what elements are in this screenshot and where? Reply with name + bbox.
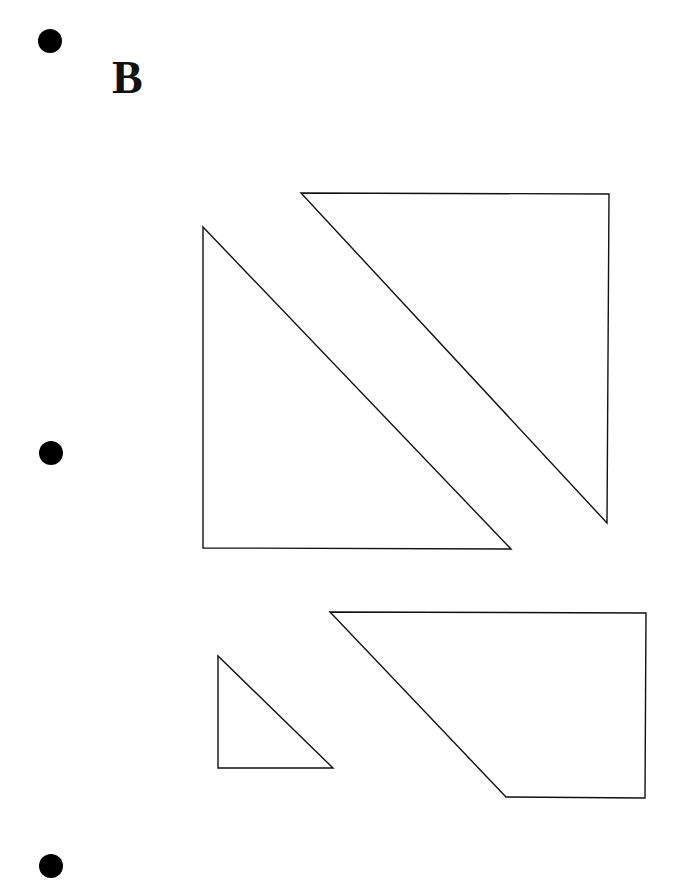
shapes-canvas (0, 0, 677, 896)
hole-punch-icon (39, 854, 63, 878)
trapezoid (330, 612, 646, 798)
large-right-triangle-right (301, 193, 609, 523)
hole-punch-icon (38, 29, 62, 53)
worksheet-page: B (0, 0, 677, 896)
small-right-triangle (218, 656, 333, 768)
large-right-triangle-left (203, 227, 511, 549)
hole-punch-icon (39, 441, 63, 465)
